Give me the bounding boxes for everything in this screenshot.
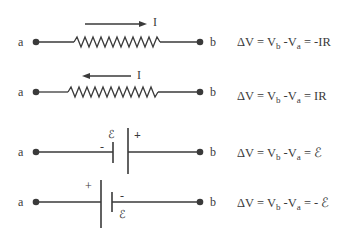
- minus-label: -: [100, 141, 104, 153]
- row-1-circuit: [36, 24, 200, 47]
- equation-row-1: ΔV = Vb -Va = -IR: [237, 35, 331, 53]
- row-3-circuit: [36, 128, 200, 174]
- node-b-label: b: [210, 146, 216, 158]
- node-b-label: b: [210, 86, 216, 98]
- node-b-label: b: [210, 196, 216, 208]
- equation-lhs: ΔV = V: [237, 35, 276, 49]
- node-a-label: a: [18, 36, 23, 48]
- node-a-label: a: [18, 196, 23, 208]
- current-label: I: [153, 16, 157, 28]
- equation-rhs: = - ℰ: [301, 196, 330, 210]
- resistor-zigzag: [74, 37, 160, 47]
- node-b-dot: [197, 199, 204, 206]
- row-2-circuit: [36, 76, 200, 97]
- arrow-left-icon: [82, 73, 90, 79]
- equation-row-3: ΔV = Vb -Va = ℰ: [237, 146, 322, 164]
- row-4-circuit: [36, 180, 200, 228]
- equation-rhs: = IR: [301, 89, 327, 103]
- equation-mid: -V: [280, 146, 296, 160]
- node-a-label: a: [18, 86, 23, 98]
- node-b-dot: [197, 39, 204, 46]
- circuit-diagram: a b I ΔV = Vb -Va = -IR a b I ΔV = Vb -V…: [0, 0, 357, 238]
- node-a-label: a: [18, 146, 23, 158]
- equation-rhs: = -IR: [301, 35, 331, 49]
- plus-label: +: [85, 180, 92, 192]
- node-a-dot: [33, 149, 40, 156]
- node-a-dot: [33, 199, 40, 206]
- node-b-dot: [197, 149, 204, 156]
- arrow-right-icon: [139, 21, 147, 27]
- node-b-label: b: [210, 36, 216, 48]
- equation-lhs: ΔV = V: [237, 89, 276, 103]
- equation-rhs: = ℰ: [301, 146, 322, 160]
- equation-row-4: ΔV = Vb -Va = - ℰ: [237, 196, 329, 214]
- equation-mid: -V: [280, 35, 296, 49]
- node-a-dot: [33, 89, 40, 96]
- node-b-dot: [197, 89, 204, 96]
- equation-mid: -V: [280, 89, 296, 103]
- minus-label: -: [120, 190, 124, 202]
- node-a-dot: [33, 39, 40, 46]
- equation-mid: -V: [280, 196, 296, 210]
- emf-label: ℰ: [119, 208, 126, 220]
- current-label: I: [137, 69, 141, 81]
- equation-row-2: ΔV = Vb -Va = IR: [237, 89, 327, 107]
- emf-label: ℰ: [108, 128, 115, 140]
- equation-lhs: ΔV = V: [237, 196, 276, 210]
- equation-lhs: ΔV = V: [237, 146, 276, 160]
- resistor-zigzag: [68, 87, 158, 97]
- plus-label: +: [134, 129, 141, 141]
